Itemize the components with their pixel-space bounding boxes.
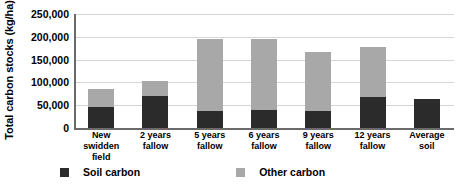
legend-label: Soil carbon <box>83 166 140 178</box>
legend-entry[interactable]: Soil carbon <box>60 166 140 178</box>
x-axis-tick-label-line: fallow <box>292 141 344 152</box>
y-axis-tick-label: 100,000 <box>31 76 69 88</box>
y-axis-tick-label: 50,000 <box>37 99 69 111</box>
x-axis-tick-label-line: 6 years <box>238 130 290 141</box>
x-axis-tick-label-line: 5 years <box>184 130 236 141</box>
stacked-bar[interactable] <box>305 52 331 128</box>
bar-segment-other-carbon[interactable] <box>142 81 168 96</box>
y-axis-tick-label: 150,000 <box>31 54 69 66</box>
bar-segment-soil-carbon[interactable] <box>142 96 168 128</box>
bar-segment-other-carbon[interactable] <box>88 89 114 107</box>
bar-segment-soil-carbon[interactable] <box>88 107 114 128</box>
x-axis-tick-labels: Newswidden field2 yearsfallow5 yearsfall… <box>74 130 454 160</box>
x-axis-tick-label-line: fallow <box>238 141 290 152</box>
x-axis-tick-label: Newswidden field <box>74 130 128 160</box>
bar-slot <box>345 14 399 128</box>
bar-segment-soil-carbon[interactable] <box>251 110 277 128</box>
x-axis-tick-label-line: fallow <box>184 141 236 152</box>
x-axis-tick-label: 9 yearsfallow <box>291 130 345 160</box>
legend-swatch-icon <box>60 168 69 177</box>
bar-segment-other-carbon[interactable] <box>197 39 223 111</box>
x-axis-tick-label: 2 yearsfallow <box>128 130 182 160</box>
chart-legend: Soil carbonOther carbon <box>60 166 325 178</box>
bar-slot <box>74 14 128 128</box>
x-axis-tick-label-line: soil <box>401 141 453 152</box>
x-axis-tick-label-line: 12 years <box>346 130 398 141</box>
y-axis-tick-label: 0 <box>63 122 69 134</box>
stacked-bar[interactable] <box>251 39 277 128</box>
stacked-bar[interactable] <box>197 39 223 128</box>
x-axis-tick-label: 12 yearsfallow <box>345 130 399 160</box>
legend-entry[interactable]: Other carbon <box>236 166 325 178</box>
plot-area <box>74 14 454 128</box>
y-axis-tick-labels: 250,000200,000150,000100,00050,0000 <box>16 8 72 128</box>
y-axis-tick-label: 250,000 <box>31 8 69 20</box>
legend-label: Other carbon <box>259 166 325 178</box>
bar-slot <box>291 14 345 128</box>
stacked-bar[interactable] <box>142 81 168 128</box>
y-axis-title-text: Total carbon stocks (kg/ha) <box>3 0 15 140</box>
bar-segment-soil-carbon[interactable] <box>305 111 331 128</box>
bar-segment-other-carbon[interactable] <box>251 39 277 110</box>
bar-segment-soil-carbon[interactable] <box>360 97 386 128</box>
x-axis-tick-label-line: New <box>75 130 127 141</box>
bar-slot <box>183 14 237 128</box>
bar-segment-other-carbon[interactable] <box>360 47 386 97</box>
x-axis-tick-label-line: Average <box>401 130 453 141</box>
bar-segment-soil-carbon[interactable] <box>197 111 223 128</box>
bar-segment-soil-carbon[interactable] <box>414 99 440 128</box>
bar-group <box>74 14 454 128</box>
chart-figure: Total carbon stocks (kg/ha) 250,000200,0… <box>0 0 464 190</box>
stacked-bar[interactable] <box>414 99 440 128</box>
stacked-bar[interactable] <box>88 89 114 128</box>
x-axis-tick-label-line: swidden field <box>75 141 127 163</box>
x-axis-tick-label: 5 yearsfallow <box>183 130 237 160</box>
x-axis-tick-label-line: fallow <box>346 141 398 152</box>
y-axis-tick-label: 200,000 <box>31 31 69 43</box>
x-axis-tick-label: 6 yearsfallow <box>237 130 291 160</box>
bar-slot <box>128 14 182 128</box>
x-axis-tick-label-line: 9 years <box>292 130 344 141</box>
bar-segment-other-carbon[interactable] <box>305 52 331 111</box>
bar-slot <box>237 14 291 128</box>
x-axis-tick-label: Averagesoil <box>400 130 454 160</box>
bar-slot <box>400 14 454 128</box>
legend-swatch-icon <box>236 168 245 177</box>
stacked-bar[interactable] <box>360 47 386 128</box>
x-axis-tick-label-line: 2 years <box>129 130 181 141</box>
x-axis-tick-label-line: fallow <box>129 141 181 152</box>
